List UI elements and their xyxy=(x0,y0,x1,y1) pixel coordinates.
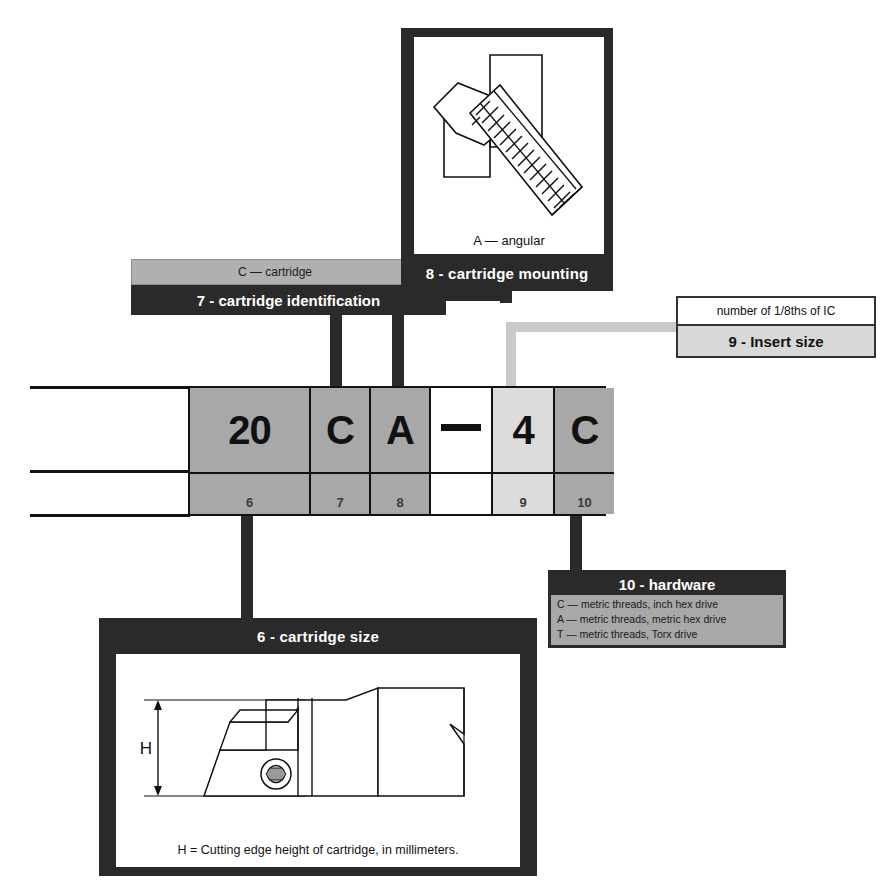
diagram-canvas: 20 6 C 7 A 8 4 9 C 10 C — cartridge 7 - … xyxy=(0,0,886,894)
cartridge-size-title[interactable]: 6 - cartridge size xyxy=(99,623,537,649)
cartridge-mounting-panel: A — angular 8 - cartridge mounting xyxy=(401,28,613,291)
code-value-6: 20 xyxy=(190,388,309,474)
cartridge-identification-label[interactable]: 7 - cartridge identification xyxy=(131,285,446,315)
code-cell-separator xyxy=(431,388,493,514)
connector-cartridge-size xyxy=(241,512,253,622)
cartridge-size-panel: 6 - cartridge size H xyxy=(99,618,537,876)
code-value-7: C xyxy=(311,388,369,474)
cartridge-mounting-figure: A — angular xyxy=(413,36,605,255)
code-index-9: 9 xyxy=(493,474,553,514)
connector-insert-size-horizontal xyxy=(506,322,678,332)
angular-bolt-drawing xyxy=(414,37,605,255)
hardware-title[interactable]: 10 - hardware xyxy=(551,573,783,595)
hardware-options: C — metric threads, inch hex drive A — m… xyxy=(551,595,783,645)
code-value-10: C xyxy=(555,388,614,474)
baseline-rule-middle xyxy=(30,470,190,473)
code-cell-7[interactable]: C 7 xyxy=(311,388,371,514)
code-table: 20 6 C 7 A 8 4 9 C 10 xyxy=(188,386,606,516)
code-cell-6[interactable]: 20 6 xyxy=(190,388,311,514)
insert-size-title[interactable]: 9 - Insert size xyxy=(678,326,874,356)
dimension-label-h: H xyxy=(140,739,152,758)
connector-hardware xyxy=(570,512,582,574)
code-cell-9[interactable]: 4 9 xyxy=(493,388,555,514)
code-value-9: 4 xyxy=(493,388,553,474)
cartridge-size-figure: H xyxy=(115,653,521,868)
cartridge-mounting-title[interactable]: 8 - cartridge mounting xyxy=(407,260,607,286)
code-value-separator xyxy=(431,388,491,474)
dash-icon xyxy=(441,424,481,431)
hardware-option-c: C — metric threads, inch hex drive xyxy=(557,597,777,612)
code-cell-8[interactable]: A 8 xyxy=(371,388,431,514)
code-index-10: 10 xyxy=(555,474,614,514)
code-index-6: 6 xyxy=(190,474,309,514)
cutting-edge-height-drawing: H xyxy=(116,654,521,868)
connector-cartridge-identification xyxy=(330,313,342,388)
code-index-separator xyxy=(431,474,491,514)
code-cell-10[interactable]: C 10 xyxy=(555,388,614,514)
hardware-option-a: A — metric threads, metric hex drive xyxy=(557,612,777,627)
code-index-8: 8 xyxy=(371,474,429,514)
code-index-7: 7 xyxy=(311,474,369,514)
code-value-8: A xyxy=(371,388,429,474)
baseline-rule-bottom xyxy=(30,514,190,517)
cartridge-identification-value: C — cartridge xyxy=(131,259,419,285)
cartridge-mounting-caption: A — angular xyxy=(414,233,604,248)
insert-size-value: number of 1/8ths of IC xyxy=(678,298,874,326)
connector-insert-size-vertical xyxy=(506,322,516,388)
baseline-rule-top xyxy=(30,386,190,389)
hardware-box: 10 - hardware C — metric threads, inch h… xyxy=(548,570,786,648)
connector-cartridge-mounting-stub xyxy=(500,289,512,303)
hardware-option-t: T — metric threads, Torx drive xyxy=(557,627,777,642)
insert-size-box: number of 1/8ths of IC 9 - Insert size xyxy=(676,296,876,358)
cartridge-size-caption: H = Cutting edge height of cartridge, in… xyxy=(116,843,520,857)
